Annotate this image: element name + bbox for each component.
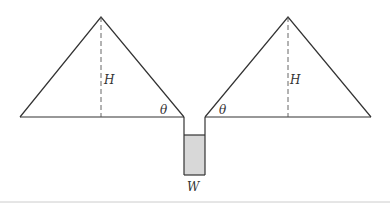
height-label-right: H (289, 73, 301, 87)
diagram-canvas: H H θ θ W (0, 0, 390, 209)
channel (184, 117, 205, 175)
right-triangle (205, 17, 371, 117)
filled-region (184, 135, 205, 175)
angle-label-left: θ (160, 103, 168, 117)
angle-label-right: θ (219, 103, 227, 117)
left-triangle (20, 17, 184, 117)
height-label-left: H (103, 73, 115, 87)
width-label: W (187, 180, 201, 194)
